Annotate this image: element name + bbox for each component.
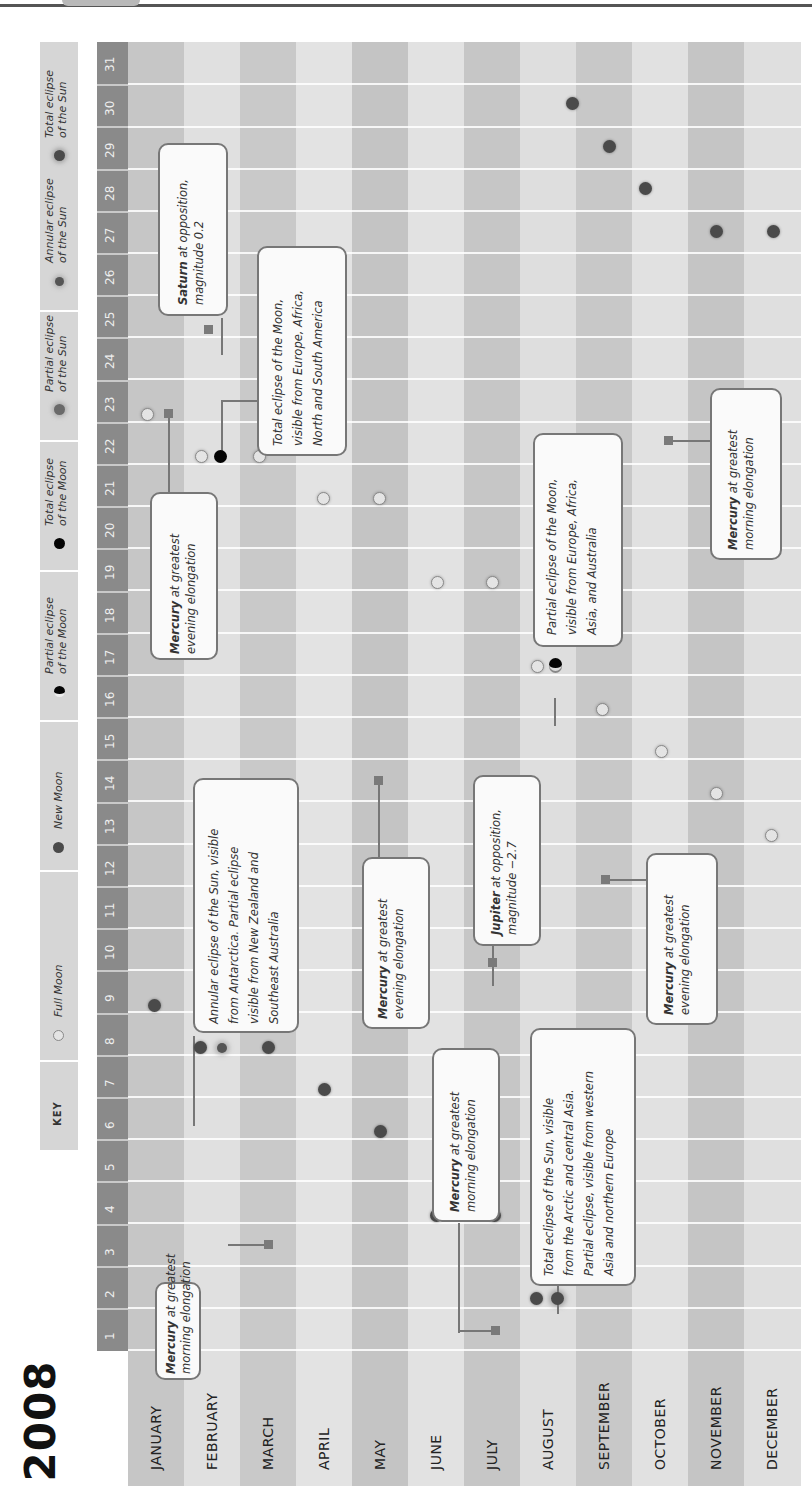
day-cell: 9 — [97, 970, 128, 1012]
grid-line — [128, 126, 801, 128]
full-moon-marker-apr-20 — [317, 492, 330, 505]
grid-line — [128, 547, 801, 549]
callout-text: evening elongation — [392, 908, 407, 1019]
legend-label: Annular eclipse — [44, 178, 56, 263]
day-label: 12 — [103, 861, 117, 876]
day-label: 30 — [103, 101, 117, 116]
day-label: 20 — [103, 523, 117, 538]
connector-line — [228, 1244, 268, 1246]
day-label: 23 — [103, 396, 117, 411]
day-label: 31 — [103, 57, 117, 72]
callout-text: Southeast Australia — [267, 911, 282, 1024]
partial-solar-eclipse-icon — [54, 404, 65, 415]
callout-text: Mercury at greatest — [376, 899, 391, 1019]
grid-line — [128, 421, 801, 423]
callout-text: visible from Europe, Africa, — [291, 290, 306, 446]
legend-label: New Moon — [53, 772, 65, 829]
month-label: APRIL — [316, 1428, 332, 1470]
legend-title: KEY — [52, 1101, 63, 1126]
new-moon-marker-feb-7 — [194, 1041, 207, 1054]
day-cell: 21 — [97, 464, 128, 506]
connector-line — [458, 1223, 460, 1333]
callout-mercury-morning-mar: Mercury at greatest morning elongation — [155, 1282, 201, 1380]
legend-label: of the Moon — [57, 460, 69, 526]
total-solar-eclipse-icon — [54, 150, 65, 161]
callout-text: visible from New Zealand and — [247, 852, 262, 1024]
callout-mercury-evening-jan: Mercury at greatest evening elongation — [150, 492, 218, 660]
grid-line — [128, 83, 801, 85]
callout-text: Mercury at greatest — [662, 895, 677, 1015]
legend-item-full-moon: Full Moon — [40, 872, 78, 1062]
mercury-event-marker-may-14 — [374, 776, 383, 785]
full-moon-marker-jun-18 — [431, 576, 444, 589]
grid-line — [128, 252, 801, 254]
legend-label: of the Moon — [57, 608, 69, 674]
callout-text: Total eclipse of the Sun, visible — [542, 1098, 557, 1276]
legend-label: Partial eclipse — [44, 315, 56, 392]
callout-text: North and South America — [311, 300, 326, 446]
grid-line — [128, 1265, 801, 1267]
day-cell: 14 — [97, 759, 128, 801]
month-column-october: OCTOBER — [632, 42, 688, 1486]
legend-item-total-lunar-eclipse: Total eclipse of the Moon — [40, 442, 78, 572]
day-cell: 13 — [97, 802, 128, 844]
day-label: 8 — [103, 1037, 117, 1045]
new-moon-icon — [53, 842, 64, 853]
full-moon-marker-aug-16 — [531, 660, 544, 673]
day-label: 1 — [103, 1332, 117, 1340]
callout-text: magnitude −2.7 — [505, 841, 520, 935]
legend: KEY Full Moon New Moon Partial eclipse o… — [40, 42, 78, 1152]
connector-line — [554, 698, 556, 726]
day-axis: 31 30 29 28 27 26 25 24 23 22 21 20 19 1… — [97, 42, 128, 1351]
callout-text: Saturn at opposition, — [176, 179, 191, 305]
grid-line — [128, 716, 801, 718]
day-label: 19 — [103, 565, 117, 580]
callout-text: Annular eclipse of the Sun, visible — [207, 829, 222, 1024]
full-moon-marker-may-20 — [373, 492, 386, 505]
month-label: SEPTEMBER — [596, 1382, 612, 1470]
connector-line — [668, 440, 710, 442]
new-moon-marker-aug-1 — [530, 1292, 543, 1305]
new-moon-marker-dec-27 — [767, 225, 780, 238]
annular-solar-eclipse-icon — [55, 277, 64, 286]
grid-line — [128, 505, 801, 507]
month-label: MARCH — [260, 1417, 276, 1471]
day-cell: 22 — [97, 422, 128, 464]
day-cell: 24 — [97, 337, 128, 379]
month-column-may: MAY — [352, 42, 408, 1486]
day-cell: 4 — [97, 1181, 128, 1223]
callout-text: morning elongation — [464, 1099, 479, 1212]
new-moon-marker-oct-28 — [639, 182, 652, 195]
month-label: JULY — [484, 1439, 500, 1470]
callout-text: Jupiter at opposition, — [489, 809, 504, 935]
callout-text: from the Arctic and central Asia. — [562, 1089, 577, 1276]
day-cell: 3 — [97, 1224, 128, 1266]
grid-line — [128, 294, 801, 296]
grid-line — [128, 210, 801, 212]
day-cell: 12 — [97, 844, 128, 886]
grid-line — [128, 589, 801, 591]
callout-text: Partial eclipse of the Moon, — [545, 479, 560, 635]
callout-annular-solar-eclipse: Annular eclipse of the Sun, visible from… — [193, 778, 299, 1033]
month-label: NOVEMBER — [708, 1386, 724, 1470]
callout-jupiter-opposition: Jupiter at opposition, magnitude −2.7 — [473, 775, 541, 946]
legend-title-section: KEY — [40, 1062, 78, 1152]
day-cell: 19 — [97, 548, 128, 590]
day-label: 10 — [103, 945, 117, 960]
callout-mercury-morning-nov: Mercury at greatest morning elongation — [710, 388, 782, 560]
full-moon-marker-nov-13 — [710, 787, 723, 800]
callout-text: magnitude 0.2 — [192, 221, 207, 305]
callout-text: Asia and northern Europe — [602, 1129, 617, 1276]
callout-text: Mercury at greatest — [448, 1092, 463, 1212]
connector-line — [168, 412, 170, 494]
callout-partial-lunar-eclipse: Partial eclipse of the Moon, visible fro… — [533, 433, 623, 647]
day-cell: 30 — [97, 84, 128, 126]
grid-line — [128, 463, 801, 465]
day-label: 9 — [103, 995, 117, 1003]
legend-item-partial-lunar-eclipse: Partial eclipse of the Moon — [40, 572, 78, 722]
mercury-event-marker-jul-1 — [491, 1326, 500, 1335]
full-moon-marker-feb-21 — [195, 450, 208, 463]
day-cell: 27 — [97, 211, 128, 253]
day-cell: 25 — [97, 295, 128, 337]
mercury-event-marker-sep-11 — [601, 875, 610, 884]
